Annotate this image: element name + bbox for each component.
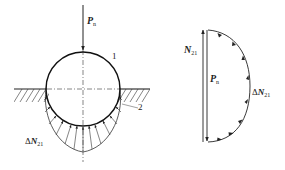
ground-hatch-right [118,89,150,102]
label-body-1: 1 [112,52,117,61]
label-pn-right: Pn [210,74,219,85]
leader-line-2 [122,104,138,108]
label-delta-n21-right: ΔN21 [252,88,270,98]
curve-arrowheads [217,33,249,141]
diagram-canvas: Pn 1 2 ΔN21 N21 Pn ΔN21 [0,0,285,170]
label-n21-right: N21 [184,45,197,56]
label-delta-n21-left: ΔN21 [25,137,43,147]
label-body-2: 2 [138,103,143,112]
force-polygon-curve [208,30,250,142]
right-figure [203,30,250,142]
label-pn-left: Pn [87,16,96,27]
